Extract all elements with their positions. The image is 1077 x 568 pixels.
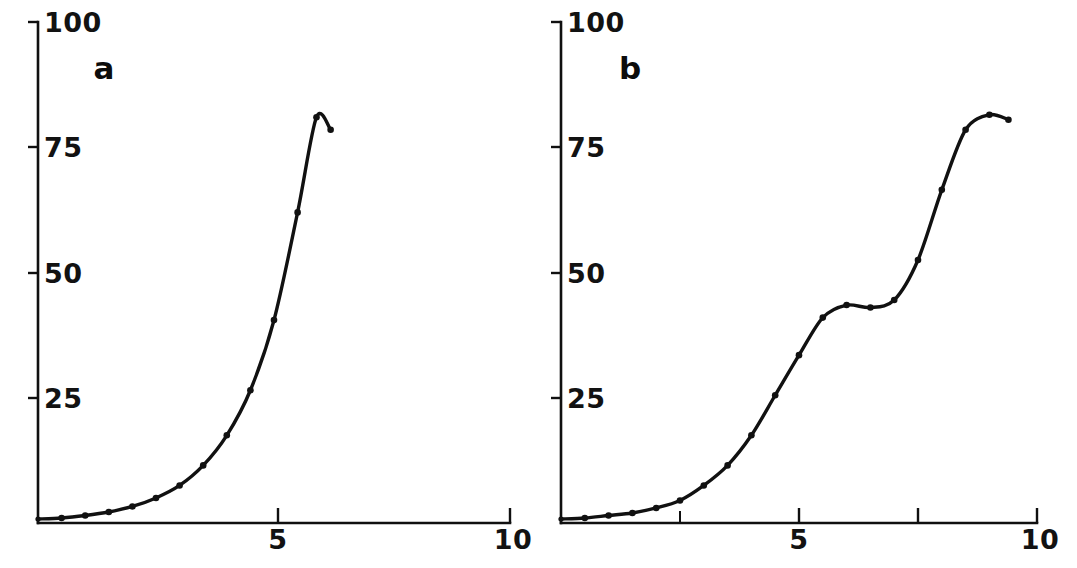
panel-b-label: b (619, 50, 641, 86)
data-point (582, 515, 589, 522)
data-point (820, 314, 827, 321)
data-point (271, 317, 278, 324)
panel-a-ylabel-75: 75 (44, 132, 83, 163)
data-point (796, 352, 803, 359)
panel-b-ylabel-50: 50 (567, 258, 606, 289)
data-point (939, 187, 946, 194)
panel-b-xlabel-5: 5 (789, 524, 808, 555)
data-point (224, 432, 231, 439)
data-point (605, 512, 612, 519)
panel-b-svg: 100 75 50 25 5 10 b (540, 0, 1077, 568)
panel-a-ylabel-100: 100 (44, 7, 102, 38)
panel-b-xlabel-10: 10 (1021, 524, 1060, 555)
panel-a-xlabel-10: 10 (494, 524, 533, 555)
data-point (772, 392, 779, 399)
data-point (867, 304, 874, 311)
panel-a-data-curve (38, 113, 331, 519)
panel-b-ylabel-75: 75 (567, 132, 606, 163)
chart-panel-b: 100 75 50 25 5 10 b (540, 0, 1077, 568)
data-point (247, 387, 254, 394)
panel-a-ylabel-25: 25 (44, 383, 83, 414)
data-point (915, 257, 922, 264)
data-point (962, 126, 969, 133)
data-point (701, 482, 708, 489)
panel-a-data-points (35, 114, 334, 522)
data-point (313, 114, 320, 121)
data-point (843, 302, 850, 309)
chart-panel-a: 100 75 50 25 5 10 a (0, 0, 540, 568)
data-point (653, 505, 660, 512)
figure-container: 100 75 50 25 5 10 a (0, 0, 1077, 568)
data-point (1005, 116, 1012, 123)
data-point (153, 495, 160, 502)
data-point (294, 209, 301, 216)
panel-a-ylabel-50: 50 (44, 258, 83, 289)
data-point (677, 497, 684, 504)
data-point (129, 503, 136, 510)
panel-a-svg: 100 75 50 25 5 10 a (0, 0, 540, 568)
data-point (629, 510, 636, 517)
panel-b-ylabel-100: 100 (567, 7, 625, 38)
data-point (986, 111, 993, 118)
data-point (106, 509, 113, 516)
data-point (82, 512, 89, 519)
data-point (724, 462, 731, 469)
panel-b-data-curve (561, 114, 1008, 519)
data-point (558, 516, 563, 521)
data-point (35, 516, 40, 521)
panel-a-xlabel-5: 5 (268, 524, 287, 555)
panel-b-data-points (558, 111, 1011, 521)
data-point (327, 126, 334, 133)
panel-b-ylabel-25: 25 (567, 383, 606, 414)
panel-a-label: a (94, 50, 115, 86)
data-point (891, 297, 898, 304)
data-point (176, 482, 183, 489)
data-point (200, 462, 207, 469)
data-point (58, 515, 65, 522)
data-point (748, 432, 755, 439)
